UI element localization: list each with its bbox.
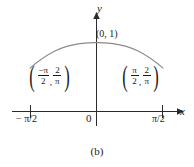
y-axis-label: y (97, 3, 102, 14)
left-coord-comma: , (50, 77, 52, 87)
right-coord-comma: , (139, 77, 141, 87)
left-x-denominator: 2 (40, 77, 47, 86)
right-x-denominator: 2 (131, 77, 138, 86)
right-paren-close: ) (154, 64, 160, 87)
right-y-denominator: π (143, 77, 150, 86)
right-endpoint-label: ( π 2 , 2 π ) (120, 64, 161, 87)
origin-label: 0 (86, 113, 92, 124)
left-y-numerator: 2 (54, 66, 61, 75)
left-x-fraction: −π 2 (37, 66, 50, 86)
left-paren-close: ) (64, 64, 70, 87)
left-y-fraction: 2 π (53, 66, 62, 86)
x-axis-label: x (180, 106, 185, 117)
left-paren-open: ( (29, 64, 35, 87)
left-y-denominator: π (54, 77, 61, 86)
x-tick-label-negative-pi-over-2: − π/2 (16, 114, 37, 124)
left-x-numerator: −π (38, 66, 50, 75)
right-y-numerator: 2 (144, 66, 151, 75)
peak-point-label: (0, 1) (96, 29, 118, 39)
left-endpoint-label: ( −π 2 , 2 π ) (27, 64, 72, 87)
figure-container: y x − π/2 π/2 0 (0, 1) ( −π 2 , 2 π ) ( … (0, 0, 194, 167)
right-x-fraction: π 2 (130, 66, 139, 86)
right-paren-open: ( (122, 64, 128, 87)
x-tick-label-pi-over-2: π/2 (152, 114, 165, 124)
right-y-fraction: 2 π (142, 66, 151, 86)
figure-caption: (b) (0, 146, 194, 157)
right-x-numerator: π (131, 66, 138, 75)
